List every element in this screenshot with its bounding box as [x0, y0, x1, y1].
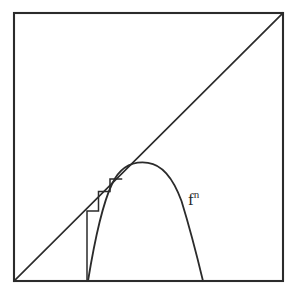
- curve-label-f: fn: [188, 188, 200, 209]
- figure-root: fn: [0, 0, 296, 293]
- iterate-map-curve: [88, 162, 203, 281]
- cobweb-diagram-svg: fn: [0, 0, 296, 293]
- identity-line: [14, 13, 283, 281]
- curve-label-exponent: n: [194, 188, 200, 200]
- cobweb-staircase: [87, 179, 122, 281]
